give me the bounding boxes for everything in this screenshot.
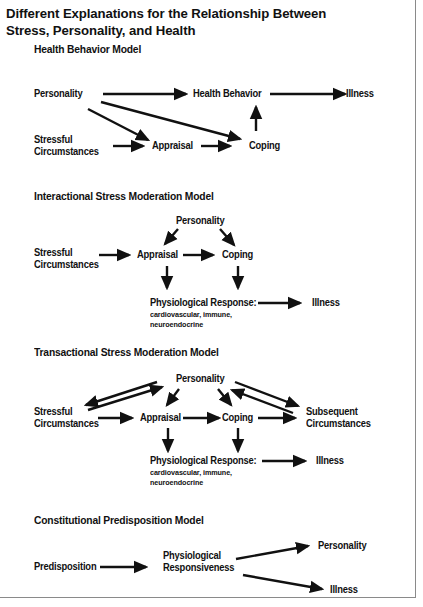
node-appraisal: Appraisal — [140, 412, 181, 424]
node-stressful-circumstances: Stressful Circumstances — [34, 406, 99, 430]
node-stressful-circumstances: Stressful Circumstances — [34, 134, 99, 158]
model-title-interactional: Interactional Stress Moderation Model — [34, 190, 214, 202]
node-physiological-responsiveness: Physiological Responsiveness — [163, 550, 234, 574]
node-coping: Coping — [222, 249, 253, 261]
node-personality: Personality — [34, 88, 82, 100]
node-illness: Illness — [316, 455, 344, 467]
physiological-response-detail: cardiovascular, immune, neuroendocrine — [150, 310, 232, 330]
node-personality: Personality — [176, 215, 224, 227]
node-personality: Personality — [176, 373, 224, 385]
title-line-1: Different Explanations for the Relations… — [6, 5, 326, 22]
node-appraisal: Appraisal — [137, 249, 178, 261]
physiological-response-detail: cardiovascular, immune, neuroendocrine — [150, 468, 232, 488]
node-health-behavior: Health Behavior — [193, 88, 261, 100]
node-illness: Illness — [330, 584, 358, 596]
model-title-constitutional: Constitutional Predisposition Model — [34, 514, 204, 526]
node-physiological-response: Physiological Response: — [150, 455, 257, 467]
node-coping: Coping — [222, 412, 253, 424]
node-stressful-circumstances: Stressful Circumstances — [34, 247, 99, 271]
node-physiological-response: Physiological Response: — [150, 297, 257, 309]
node-predisposition: Predisposition — [34, 561, 96, 573]
figure-title: Different Explanations for the Relations… — [6, 5, 326, 39]
node-coping: Coping — [249, 140, 280, 152]
node-personality: Personality — [318, 540, 366, 552]
node-illness: Illness — [346, 88, 374, 100]
model-title-health-behavior: Health Behavior Model — [34, 43, 141, 55]
title-line-2: Stress, Personality, and Health — [6, 22, 326, 39]
node-illness: Illness — [312, 297, 340, 309]
node-appraisal: Appraisal — [152, 140, 193, 152]
model-title-transactional: Transactional Stress Moderation Model — [34, 346, 219, 358]
node-subsequent-circumstances: Subsequent Circumstances — [306, 406, 371, 430]
